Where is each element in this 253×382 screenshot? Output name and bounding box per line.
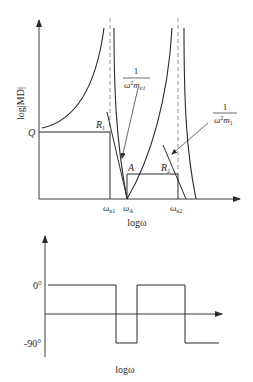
svg-text:1: 1 xyxy=(134,66,139,76)
diagram-canvas: log|MD| Q R1 A R2 1 ω2me1 1 ω2m1 ωn1 ωA … xyxy=(0,0,253,382)
wn2-tick-label: ωn2 xyxy=(170,203,182,214)
svg-text:ω2me1: ω2me1 xyxy=(124,80,146,91)
rising-curve-to-wn2 xyxy=(127,28,172,199)
left-resonance-curve xyxy=(42,28,104,128)
x-axis-label: logω xyxy=(127,217,147,228)
a-label: A xyxy=(127,162,135,173)
y-axis-label: log|MD| xyxy=(15,87,26,120)
m1-annotation: 1 ω2m1 xyxy=(213,102,237,126)
middle-descending-curve xyxy=(114,28,127,199)
wa-tick-label: ωA xyxy=(123,203,133,214)
minus90-degree-label: -90° xyxy=(24,338,41,349)
phase-chart: 0° -90° logω xyxy=(24,236,222,375)
r2-label: R2 xyxy=(160,162,170,174)
svg-text:1: 1 xyxy=(223,102,228,112)
r1-label: R1 xyxy=(95,119,105,131)
wn1-tick-label: ωn1 xyxy=(103,203,115,214)
me1-pointer-arrow xyxy=(122,88,138,158)
q-label: Q xyxy=(28,127,36,138)
magnitude-chart: log|MD| Q R1 A R2 1 ω2me1 1 ω2m1 ωn1 ωA … xyxy=(15,18,240,228)
me1-annotation: 1 ω2me1 xyxy=(123,66,150,91)
svg-text:ω2m1: ω2m1 xyxy=(214,115,233,126)
zero-degree-label: 0° xyxy=(33,280,42,291)
right-descending-curve xyxy=(184,28,196,199)
m1-pointer-arrow xyxy=(172,123,208,154)
phase-x-axis-label: logω xyxy=(115,364,135,375)
